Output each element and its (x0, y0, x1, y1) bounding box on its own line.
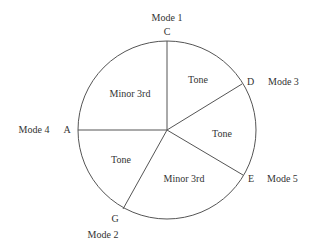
interval-label-g-a: Tone (111, 154, 131, 165)
mode-label-g: Mode 2 (88, 229, 119, 240)
interval-label-c-d: Tone (188, 74, 208, 85)
mode-label-c: Mode 1 (152, 12, 183, 23)
note-label-g: G (111, 213, 118, 224)
note-label-c: C (164, 26, 171, 37)
note-label-a: A (63, 124, 71, 135)
interval-label-a-c: Minor 3rd (110, 88, 151, 99)
note-label-e: E (248, 173, 254, 184)
mode-label-e: Mode 5 (267, 173, 298, 184)
mode-label-a: Mode 4 (19, 124, 50, 135)
note-label-d: D (247, 76, 254, 87)
radius-g (123, 130, 167, 209)
interval-label-e-g: Minor 3rd (164, 173, 205, 184)
interval-label-d-e: Tone (212, 128, 232, 139)
radius-d (167, 84, 242, 130)
mode-label-d: Mode 3 (268, 76, 299, 87)
mode-circle-diagram: Mode 1 C D Mode 3 E Mode 5 G Mode 2 A Mo… (0, 0, 314, 252)
